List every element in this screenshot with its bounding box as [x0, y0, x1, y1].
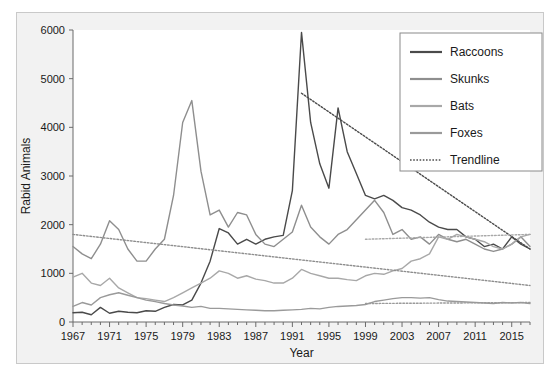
trendline-foxes — [365, 303, 530, 304]
x-tick-label: 1987 — [244, 330, 268, 342]
y-tick-label: 2000 — [41, 219, 65, 231]
chart-figure: 0100020003000400050006000196719711975197… — [0, 0, 560, 376]
x-tick-label: 1967 — [61, 330, 85, 342]
x-tick-label: 1971 — [97, 330, 121, 342]
y-tick-label: 0 — [59, 316, 65, 328]
y-tick-label: 4000 — [41, 121, 65, 133]
y-tick-label: 1000 — [41, 267, 65, 279]
legend-label-foxes: Foxes — [450, 126, 483, 140]
x-tick-label: 1979 — [170, 330, 194, 342]
legend-label-skunks: Skunks — [450, 72, 489, 86]
legend-label-raccoons: Raccoons — [450, 45, 503, 59]
legend-label-trendline: Trendline — [450, 153, 500, 167]
x-tick-label: 1999 — [353, 330, 377, 342]
x-tick-label: 2007 — [426, 330, 450, 342]
x-tick-label: 2003 — [390, 330, 414, 342]
y-tick-label: 3000 — [41, 170, 65, 182]
x-tick-label: 2015 — [499, 330, 523, 342]
y-tick-label: 6000 — [41, 24, 65, 36]
legend-label-bats: Bats — [450, 99, 474, 113]
line-chart: 0100020003000400050006000196719711975197… — [0, 0, 560, 376]
x-tick-label: 1991 — [280, 330, 304, 342]
x-tick-label: 1983 — [207, 330, 231, 342]
y-tick-label: 5000 — [41, 73, 65, 85]
y-axis-title: Rabid Animals — [19, 138, 33, 215]
x-tick-label: 1975 — [134, 330, 158, 342]
x-axis-title: Year — [289, 346, 313, 360]
x-tick-label: 2011 — [463, 330, 487, 342]
x-tick-label: 1995 — [317, 330, 341, 342]
